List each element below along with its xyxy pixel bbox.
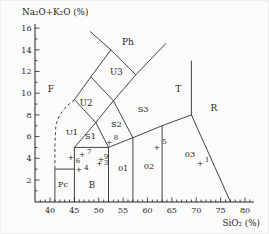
x-tick-label: 60 xyxy=(142,206,152,215)
y-tick-label: 14 xyxy=(21,46,31,55)
field-label-ph: Ph xyxy=(122,37,134,47)
sample-point-label: 7 xyxy=(87,148,91,156)
sample-point-label: 1 xyxy=(205,156,209,164)
field-boundary-line xyxy=(91,77,114,101)
sample-point-label: 4 xyxy=(84,164,88,172)
field-label-01: 01 xyxy=(118,163,128,173)
y-tick-label: 6 xyxy=(26,132,31,141)
y-axis-title: Na₂O+K₂O (%) xyxy=(22,7,88,17)
field-boundary-line xyxy=(162,115,191,126)
sample-point-marker: + xyxy=(75,165,82,174)
tas-diagram: 404550556065707580246810121416Na₂O+K₂O (… xyxy=(0,0,269,234)
field-label-t: T xyxy=(175,84,181,94)
x-tick-label: 65 xyxy=(167,206,177,215)
field-label-s2: S2 xyxy=(111,119,122,129)
x-tick-label: 75 xyxy=(216,206,226,215)
tas-plot-canvas: 404550556065707580246810121416Na₂O+K₂O (… xyxy=(0,0,269,234)
field-label-03: 03 xyxy=(185,149,195,159)
field-label-s1: S1 xyxy=(85,131,96,141)
sample-point-label: 8 xyxy=(114,134,118,142)
x-tick-label: 40 xyxy=(45,206,55,215)
x-tick-label: 45 xyxy=(69,206,79,215)
y-tick-label: 4 xyxy=(26,154,31,163)
y-tick-label: 8 xyxy=(26,111,31,120)
field-label-b: B xyxy=(89,180,95,190)
y-tick-label: 10 xyxy=(21,89,31,98)
x-tick-label: 80 xyxy=(240,206,250,215)
field-label-r: R xyxy=(210,103,217,113)
field-label-02: 02 xyxy=(144,161,154,171)
x-tick-label: 55 xyxy=(118,206,128,215)
field-label-u3: U3 xyxy=(110,67,123,77)
field-boundary-line xyxy=(133,126,162,138)
sample-point-marker: + xyxy=(106,138,113,147)
field-label-pc: Pc xyxy=(58,179,69,189)
field-label-s3: S3 xyxy=(138,104,149,114)
x-axis-title: SiO₂ (%) xyxy=(222,218,260,228)
sample-point-marker: + xyxy=(79,150,86,159)
sample-point-marker: + xyxy=(153,143,160,152)
sample-point-marker: + xyxy=(197,159,204,168)
y-tick-label: 12 xyxy=(21,67,31,76)
sample-point-label: 9 xyxy=(104,153,108,161)
x-tick-label: 70 xyxy=(191,206,201,215)
field-label-u1: U1 xyxy=(66,127,78,137)
x-tick-label: 50 xyxy=(94,206,104,215)
sample-point-marker: + xyxy=(68,153,75,162)
sample-point-label: 5 xyxy=(162,138,166,146)
y-tick-label: 16 xyxy=(21,24,31,33)
field-label-u2: U2 xyxy=(80,98,93,108)
y-tick-label: 2 xyxy=(26,176,31,185)
field-label-f: F xyxy=(48,83,54,94)
field-boundary-line xyxy=(191,115,230,202)
